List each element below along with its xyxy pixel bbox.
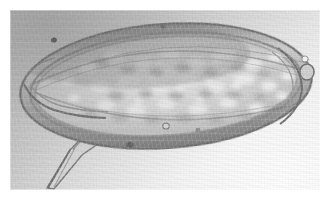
micrograph-plate bbox=[10, 10, 320, 190]
film-grain-highlights bbox=[10, 10, 320, 190]
photomicrograph-figure: Grayscale light photomicrograph of an el… bbox=[0, 0, 331, 204]
